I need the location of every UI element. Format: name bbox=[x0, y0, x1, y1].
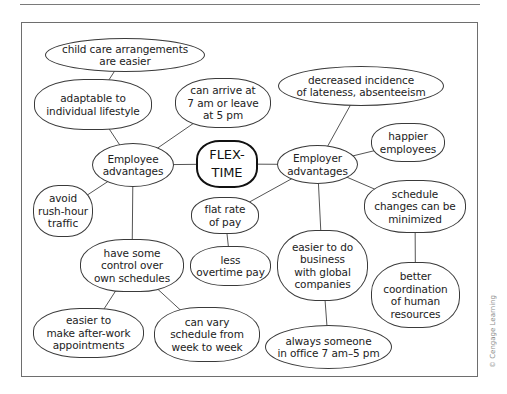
node-adaptable: adaptable to individual lifestyle bbox=[34, 79, 152, 130]
node-label: Employee advantages bbox=[103, 153, 164, 178]
node-label: easier to do business with global compan… bbox=[292, 241, 353, 291]
node-arrive: can arrive at 7 am or leave at 5 pm bbox=[175, 78, 271, 128]
node-always: always someone in office 7 am–5 pm bbox=[265, 325, 392, 369]
node-lateness: decreased incidence of lateness, absente… bbox=[278, 66, 444, 106]
node-label: adaptable to individual lifestyle bbox=[46, 92, 139, 117]
node-label: easier to make after-work appointments bbox=[46, 314, 130, 352]
node-happier: happier employees bbox=[371, 123, 445, 162]
node-label: decreased incidence of lateness, absente… bbox=[296, 74, 425, 99]
node-global: easier to do business with global compan… bbox=[277, 230, 368, 301]
node-label: child care arrangements are easier bbox=[62, 43, 188, 68]
node-label: happier employees bbox=[380, 130, 436, 155]
node-label: can vary schedule from week to week bbox=[170, 316, 244, 354]
node-childcare: child care arrangements are easier bbox=[45, 38, 205, 72]
node-schedchg: schedule changes can be minimized bbox=[364, 180, 466, 233]
node-coord: better coordination of human resources bbox=[371, 262, 460, 328]
node-flex: FLEX- TIME bbox=[196, 140, 258, 188]
node-label: avoid rush-hour traffic bbox=[38, 192, 88, 230]
node-label: can arrive at 7 am or leave at 5 pm bbox=[187, 84, 258, 122]
node-label: less overtime pay bbox=[196, 254, 265, 279]
node-label: FLEX- TIME bbox=[209, 146, 244, 182]
node-label: better coordination of human resources bbox=[383, 270, 447, 320]
node-label: Employer advantages bbox=[287, 152, 348, 177]
node-employee: Employee advantages bbox=[92, 143, 174, 187]
node-rushhour: avoid rush-hour traffic bbox=[33, 185, 93, 237]
node-label: flat rate of pay bbox=[205, 203, 246, 228]
node-overtime: less overtime pay bbox=[190, 246, 271, 286]
node-label: have some control over own schedules bbox=[94, 247, 170, 285]
node-flatrate: flat rate of pay bbox=[191, 197, 259, 234]
node-control: have some control over own schedules bbox=[80, 239, 184, 292]
node-vary: can vary schedule from week to week bbox=[154, 307, 260, 362]
node-employer: Employer advantages bbox=[277, 145, 358, 184]
node-label: schedule changes can be minimized bbox=[374, 188, 455, 226]
copyright-credit: © Cengage Learning bbox=[489, 295, 497, 368]
node-label: always someone in office 7 am–5 pm bbox=[277, 335, 379, 360]
node-afterwork: easier to make after-work appointments bbox=[33, 308, 144, 358]
